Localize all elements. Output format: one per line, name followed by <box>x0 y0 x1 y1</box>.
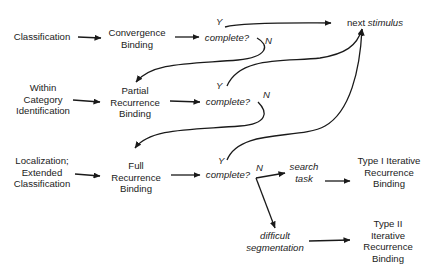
process-partial-recurrence-binding: Partial Recurrence Binding <box>110 85 160 120</box>
label-line: Classification <box>14 178 71 190</box>
process-convergence-binding: Convergence Binding <box>108 27 165 50</box>
arrow-within-to-partial <box>73 100 100 102</box>
label-line: Convergence <box>108 27 165 39</box>
terminal-next-stimulus: next stimulus <box>347 17 403 29</box>
label-line: Type I Iterative <box>358 155 421 167</box>
label-line: Localization; <box>14 155 71 167</box>
label-line: Identification <box>16 105 70 117</box>
condition-search-task: search task <box>290 161 319 184</box>
label-line: Binding <box>363 253 413 265</box>
label-line: Category <box>16 94 70 106</box>
process-full-recurrence-binding: Full Recurrence Binding <box>111 160 161 195</box>
label-line: Type II <box>363 218 413 230</box>
label-line: segmentation <box>246 242 304 254</box>
arrow-classification-to-convergence <box>78 37 101 38</box>
label-line: Binding <box>110 108 160 120</box>
branch-label-y3: Y <box>218 155 224 166</box>
label-line: task <box>290 173 319 185</box>
label-line: Partial <box>110 85 160 97</box>
decision-complete-1: complete? <box>205 32 249 44</box>
arrow-n3-to-search-task <box>256 173 285 178</box>
arrow-localization-to-full <box>75 174 100 176</box>
branch-label-n3: N <box>256 162 263 173</box>
branch-label-n1: N <box>265 35 272 46</box>
arrow-y3-to-next-stimulus <box>227 29 362 160</box>
process-type2-iterative-recurrence-binding: Type II Iterative Recurrence Binding <box>363 218 413 264</box>
arrow-difficult-to-type2 <box>309 240 350 241</box>
terminal-emphasis: stimulus <box>368 17 403 28</box>
binding-flowchart: Classification Within Category Identific… <box>0 0 426 278</box>
terminal-prefix: next <box>347 17 365 28</box>
arrow-n3-to-difficult-segmentation <box>256 178 275 228</box>
branch-label-y1: Y <box>216 16 222 27</box>
label-line: Full <box>111 160 161 172</box>
decision-complete-3: complete? <box>206 169 250 181</box>
arrow-partial-to-complete2 <box>170 101 200 102</box>
branch-label-n2: N <box>263 89 270 100</box>
label-line: Recurrence <box>110 97 160 109</box>
input-classification-text: Classification <box>14 31 71 43</box>
label-line: search <box>290 161 319 173</box>
label-line: Binding <box>108 39 165 51</box>
label-line: Recurrence <box>363 241 413 253</box>
branch-label-y2: Y <box>216 80 222 91</box>
input-classification: Classification <box>14 31 71 43</box>
label-line: Binding <box>358 178 421 190</box>
process-type1-iterative-recurrence-binding: Type I Iterative Recurrence Binding <box>358 155 421 190</box>
label-line: Within <box>16 82 70 94</box>
input-within-category-identification: Within Category Identification <box>16 82 70 117</box>
label-line: Recurrence <box>111 172 161 184</box>
label-line: Recurrence <box>358 167 421 179</box>
arrow-y1-to-next-stimulus <box>225 23 331 27</box>
label-line: difficult <box>246 230 304 242</box>
label-line: Extended <box>14 167 71 179</box>
input-localization-extended-classification: Localization; Extended Classification <box>14 155 71 190</box>
condition-difficult-segmentation: difficult segmentation <box>246 230 304 253</box>
label-line: Binding <box>111 183 161 195</box>
decision-complete-2: complete? <box>206 96 250 108</box>
label-line: Iterative <box>363 230 413 242</box>
